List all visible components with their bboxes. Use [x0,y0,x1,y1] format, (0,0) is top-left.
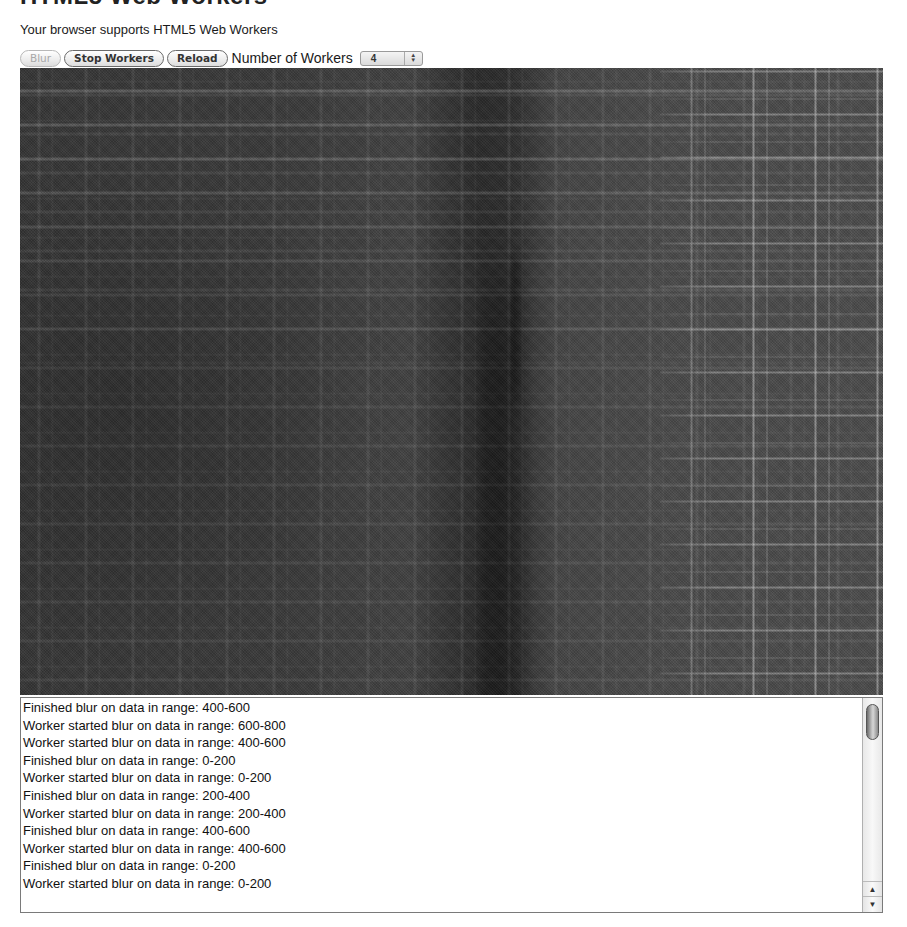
workers-count-label: Number of Workers [232,49,353,67]
log-lines: Finished blur on data in range: 400-600 … [23,699,860,893]
reload-button[interactable]: Reload [167,50,228,67]
image-canvas [20,68,883,695]
log-line: Finished blur on data in range: 400-600 [23,822,860,840]
log-line: Worker started blur on data in range: 40… [23,840,860,858]
canvas-noise [20,68,883,695]
log-line: Finished blur on data in range: 0-200 [23,752,860,770]
log-line: Worker started blur on data in range: 60… [23,717,860,735]
scroll-down-button[interactable]: ▼ [863,896,882,912]
scroll-up-button[interactable]: ▲ [863,881,882,897]
controls-bar: Blur Stop Workers Reload Number of Worke… [20,48,423,68]
page: HTML5 Web Workers Your browser supports … [0,0,907,927]
log-line: Finished blur on data in range: 200-400 [23,787,860,805]
log-textarea[interactable]: Finished blur on data in range: 400-600 … [20,697,883,913]
log-line: Finished blur on data in range: 0-200 [23,857,860,875]
select-stepper-icon: ▲ ▼ [404,52,422,65]
page-title: HTML5 Web Workers [20,0,268,8]
log-line: Finished blur on data in range: 400-600 [23,699,860,717]
blur-button[interactable]: Blur [20,50,61,67]
log-line: Worker started blur on data in range: 20… [23,805,860,823]
log-scrollbar[interactable]: ▲ ▼ [862,698,882,912]
workers-count-value: 4 [361,53,404,64]
log-line: Worker started blur on data in range: 0-… [23,769,860,787]
scrollbar-thumb[interactable] [866,704,879,740]
stop-workers-button[interactable]: Stop Workers [64,50,164,67]
log-line: Worker started blur on data in range: 40… [23,734,860,752]
arrow-down-icon: ▼ [869,900,877,909]
chevron-down-icon: ▼ [410,58,416,63]
workers-count-select[interactable]: 4 ▲ ▼ [360,51,423,66]
arrow-up-icon: ▲ [869,885,877,894]
log-line: Worker started blur on data in range: 0-… [23,875,860,893]
support-message: Your browser supports HTML5 Web Workers [20,22,278,38]
